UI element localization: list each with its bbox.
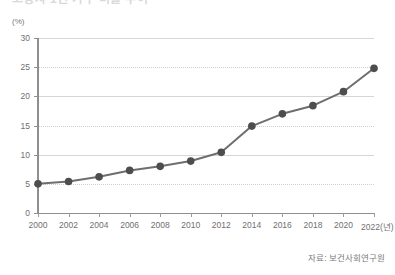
x-tick-mark-2000 bbox=[38, 213, 39, 217]
data-point-2000 bbox=[34, 180, 42, 188]
x-tick-mark-2012 bbox=[221, 213, 222, 217]
x-tick-label-2002: 2002 bbox=[59, 220, 78, 230]
x-tick-mark-2016 bbox=[282, 213, 283, 217]
x-tick-label-2006: 2006 bbox=[120, 220, 139, 230]
data-point-2022 bbox=[370, 65, 378, 73]
x-tick-label-2008: 2008 bbox=[151, 220, 170, 230]
data-series-line bbox=[38, 38, 374, 213]
y-tick-label-20: 20 bbox=[16, 91, 30, 101]
y-tick-label-25: 25 bbox=[16, 62, 30, 72]
x-tick-label-2010: 2010 bbox=[181, 220, 200, 230]
x-tick-label-2012: 2012 bbox=[212, 220, 231, 230]
x-tick-mark-2006 bbox=[130, 213, 131, 217]
plot-area: 051015202530 200020022004200620082010201… bbox=[38, 38, 374, 213]
x-tick-mark-2010 bbox=[191, 213, 192, 217]
source-note: 자료: 보건사회연구원 bbox=[308, 251, 385, 263]
x-tick-mark-2004 bbox=[99, 213, 100, 217]
y-tick-label-5: 5 bbox=[16, 179, 30, 189]
y-tick-label-30: 30 bbox=[16, 33, 30, 43]
data-point-2010 bbox=[187, 157, 195, 165]
x-tick-label-2022: 2022(년) bbox=[361, 220, 394, 232]
y-axis-unit-label: (%) bbox=[12, 17, 24, 26]
x-tick-label-2016: 2016 bbox=[273, 220, 292, 230]
x-tick-mark-2002 bbox=[69, 213, 70, 217]
data-point-2008 bbox=[156, 163, 164, 171]
x-tick-mark-2020 bbox=[343, 213, 344, 217]
data-point-2014 bbox=[248, 122, 256, 130]
x-tick-label-2018: 2018 bbox=[303, 220, 322, 230]
x-tick-mark-2022 bbox=[374, 213, 375, 217]
series-polyline bbox=[38, 68, 374, 184]
chart-figure: 고령자 1인 가구 비율 추이 (%) 051015202530 2000200… bbox=[0, 0, 395, 275]
chart-title-cropped: 고령자 1인 가구 비율 추이 bbox=[0, 0, 395, 8]
x-tick-label-2004: 2004 bbox=[90, 220, 109, 230]
data-point-2012 bbox=[217, 149, 225, 157]
x-tick-mark-2008 bbox=[160, 213, 161, 217]
data-point-2006 bbox=[126, 167, 134, 175]
data-point-2002 bbox=[65, 178, 73, 186]
x-tick-label-2014: 2014 bbox=[242, 220, 261, 230]
x-tick-label-2000: 2000 bbox=[29, 220, 48, 230]
page-title: 고령자 1인 가구 비율 추이 bbox=[12, 0, 148, 6]
x-axis-line bbox=[37, 213, 375, 214]
x-tick-mark-2014 bbox=[252, 213, 253, 217]
y-tick-label-10: 10 bbox=[16, 150, 30, 160]
x-tick-mark-2018 bbox=[313, 213, 314, 217]
y-tick-label-0: 0 bbox=[16, 208, 30, 218]
x-tick-label-2020: 2020 bbox=[334, 220, 353, 230]
data-point-2018 bbox=[309, 102, 317, 110]
data-point-2004 bbox=[95, 173, 103, 181]
y-tick-label-15: 15 bbox=[16, 121, 30, 131]
data-point-2016 bbox=[279, 110, 287, 118]
data-point-2020 bbox=[340, 88, 348, 96]
